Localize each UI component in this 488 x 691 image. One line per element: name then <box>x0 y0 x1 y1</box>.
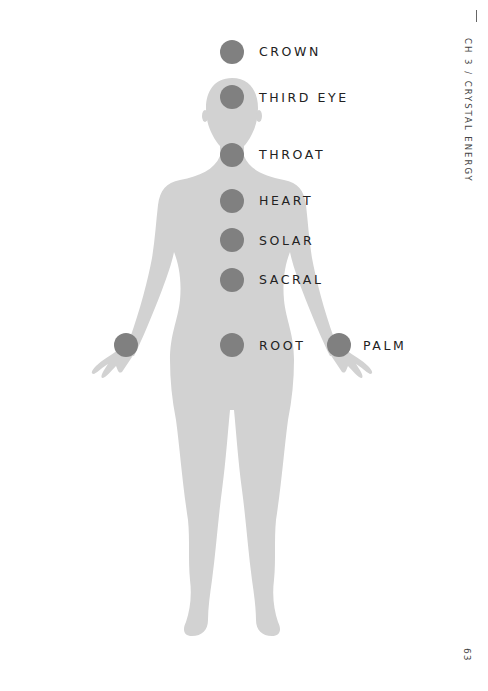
throat-label: THROAT <box>259 148 325 162</box>
left-palm-point <box>114 333 138 357</box>
sacral-point <box>220 268 244 292</box>
sacral-label: SACRAL <box>259 273 324 287</box>
heart-label: HEART <box>259 194 313 208</box>
throat-point <box>220 143 244 167</box>
third-eye-point <box>220 85 244 109</box>
body-silhouette-diagram <box>0 0 488 691</box>
solar-point <box>220 228 244 252</box>
palm-point <box>327 333 351 357</box>
crown-point <box>220 40 244 64</box>
heart-point <box>220 189 244 213</box>
root-point <box>220 333 244 357</box>
palm-label: PALM <box>363 339 406 353</box>
root-label: ROOT <box>259 339 305 353</box>
crown-label: CROWN <box>259 45 321 59</box>
third-eye-label: THIRD EYE <box>259 91 349 105</box>
solar-label: SOLAR <box>259 234 314 248</box>
